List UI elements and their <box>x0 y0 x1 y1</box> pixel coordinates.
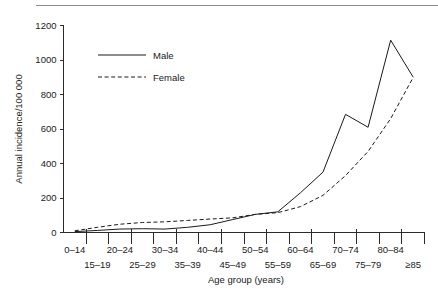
x-axis-ticks <box>86 229 424 244</box>
x-axis-tick-label: 50–54 <box>242 244 268 255</box>
x-axis-tick-labels: 0–1415–1920–2425–2930–3435–3940–4445–495… <box>64 244 421 270</box>
y-axis-tick-label: 1000 <box>35 54 56 65</box>
y-axis-title: Annual incidence/100 000 <box>13 74 24 183</box>
x-axis-tick-label: 35–39 <box>174 259 200 270</box>
x-axis-tick-label: 20–24 <box>107 244 133 255</box>
x-axis-tick-label: 60–64 <box>287 244 313 255</box>
header-rule <box>36 5 438 6</box>
x-axis-tick-label: 15–19 <box>84 259 110 270</box>
x-axis-tick-label: 30–34 <box>152 244 178 255</box>
x-axis-tick-label: 65–69 <box>310 259 336 270</box>
y-axis-tick-label: 800 <box>41 89 57 100</box>
x-axis-tick-label: ≥85 <box>405 259 421 270</box>
y-axis-tick-label: 0 <box>51 227 56 238</box>
x-axis-tick-label: 80–84 <box>377 244 403 255</box>
x-axis-tick-label: 55–59 <box>265 259 291 270</box>
x-axis-tick-label: 75–79 <box>355 259 381 270</box>
x-axis-tick-label: 25–29 <box>129 259 155 270</box>
y-axis-ticks <box>60 26 64 233</box>
x-axis-tick-label: 45–49 <box>220 259 246 270</box>
y-axis-tick-label: 600 <box>41 123 57 134</box>
y-axis-tick-label: 200 <box>41 192 57 203</box>
y-axis-tick-labels: 020040060080010001200 <box>35 20 56 238</box>
y-axis-tick-label: 400 <box>41 158 57 169</box>
x-axis-tick-label: 0–14 <box>64 244 85 255</box>
legend-label-male: Male <box>153 50 174 61</box>
y-axis-tick-label: 1200 <box>35 20 56 31</box>
series-line-male <box>75 40 413 231</box>
chart-legend: Male Female <box>98 50 185 83</box>
x-axis-tick-label: 70–74 <box>332 244 358 255</box>
series-line-female <box>75 77 413 231</box>
x-axis-title: Age group (years) <box>208 274 284 285</box>
chart-figure: 020040060080010001200 0–1415–1920–2425–2… <box>0 0 438 291</box>
legend-label-female: Female <box>153 72 185 83</box>
incidence-line-chart: 020040060080010001200 0–1415–1920–2425–2… <box>0 0 438 291</box>
x-axis-tick-label: 40–44 <box>197 244 223 255</box>
